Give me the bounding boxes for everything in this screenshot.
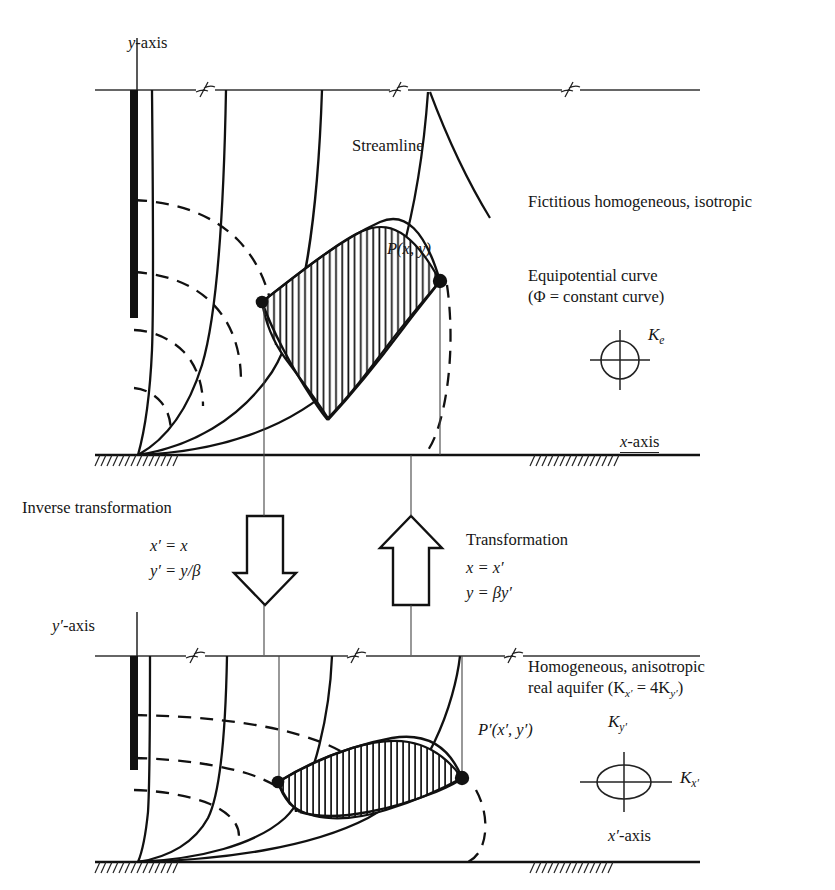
point-P-prime-label: P′(x′, y′) — [478, 720, 533, 739]
transform-arrows-group — [234, 455, 442, 655]
top-water-table-line — [95, 82, 700, 97]
streamline-label: Streamline — [352, 136, 423, 155]
bottom-caption-line2: real aquifer (Kx′ = 4Ky′) — [528, 677, 705, 701]
transformation-equations: x = x′ y = βy′ — [466, 556, 512, 606]
arrow-up-shape — [380, 516, 442, 605]
bottom-ground-hatch-left — [95, 862, 178, 873]
inverse-eq-1: x′ = x — [150, 534, 200, 559]
bottom-highlight-cell — [278, 741, 462, 819]
top-y-axis-label: y-axis — [128, 33, 167, 52]
transform-eq-2: y = βy′ — [466, 581, 512, 606]
equipotential-label: Equipotential curve (Φ = constant curve) — [528, 265, 664, 307]
bottom-node-left — [272, 776, 285, 789]
top-ground-hatch-right — [530, 455, 619, 466]
inverse-transformation-equations: x′ = x y′ = y/β — [150, 534, 200, 584]
bottom-point-P-prime — [455, 771, 469, 785]
conductivity-Ky-label: Ky′ — [608, 712, 627, 735]
top-x-axis-label: x-axis — [620, 432, 659, 451]
diagram-canvas — [0, 0, 835, 890]
top-node-left — [256, 296, 269, 309]
isotropy-indicator-circle — [590, 330, 650, 390]
equipotential-label-line1: Equipotential curve — [528, 265, 664, 286]
bottom-x-axis-label: x′-axis — [608, 826, 651, 845]
inverse-eq-2: y′ = y/β — [150, 559, 200, 584]
top-panel-caption: Fictitious homogeneous, isotropic — [528, 192, 752, 211]
bottom-y-axis-label: y′-axis — [52, 616, 95, 635]
equipotential-label-line2: (Φ = constant curve) — [528, 286, 664, 307]
arrow-down-shape — [234, 516, 296, 605]
bottom-ground-hatch-right — [530, 862, 613, 873]
top-point-P — [433, 274, 447, 288]
conductivity-Ke-label: Ke — [648, 325, 664, 348]
transformation-title: Transformation — [466, 530, 568, 549]
transform-eq-1: x = x′ — [466, 556, 512, 581]
anisotropy-indicator-ellipse — [580, 752, 672, 812]
top-caption-leader — [430, 92, 490, 218]
conductivity-Kx-label: Kx′ — [680, 768, 699, 791]
point-P-label: P(x, y) — [387, 239, 431, 258]
top-well-screen — [130, 90, 138, 318]
bottom-caption-line1: Homogeneous, anisotropic — [528, 656, 705, 677]
figure-root: y-axis Streamline Fictitious homogeneous… — [0, 0, 835, 890]
bottom-panel-caption: Homogeneous, anisotropic real aquifer (K… — [528, 656, 705, 701]
inverse-transformation-title: Inverse transformation — [22, 498, 172, 517]
bottom-well-screen — [130, 656, 138, 770]
top-ground-hatch-left — [95, 455, 178, 466]
